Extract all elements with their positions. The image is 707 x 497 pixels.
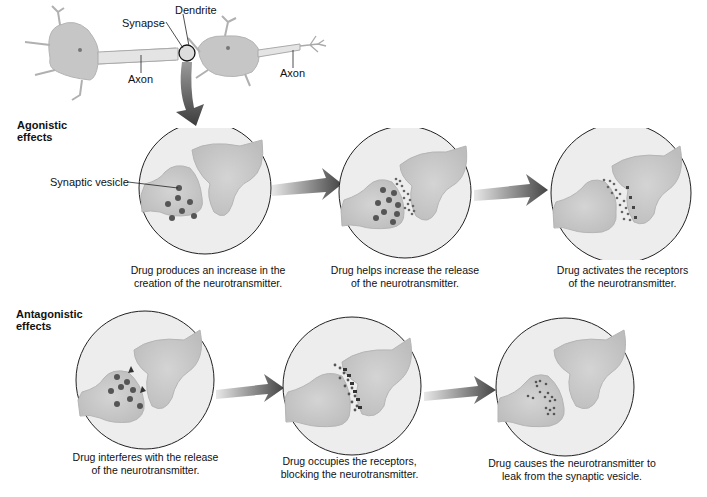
label-axon-left: Axon [128,73,153,85]
caption-agonistic-2: Drug helps increase the release of the n… [320,264,490,289]
agonistic-row-illustration [0,128,707,260]
label-dendrite: Dendrite [175,4,217,16]
antagonistic-panel-2-scene [283,317,421,455]
neuron-overview-illustration [0,0,707,130]
caption-agonistic-1: Drug produces an increase in the creatio… [118,264,298,289]
neuron-right [188,16,259,86]
agonistic-panel-3-scene [551,128,691,260]
caption-antagonistic-1: Drug interferes with the release of the … [58,451,233,476]
antagonistic-panel-3-scene [496,318,634,456]
zoom-down-arrow-icon [176,62,204,126]
antagonistic-row-illustration [0,310,707,458]
caption-antagonistic-3: Drug causes the neurotransmitter to leak… [472,457,672,482]
agonistic-panel-1-scene [128,128,271,254]
agonistic-panel-2-scene [339,128,471,258]
caption-agonistic-3: Drug activates the receptors of the neur… [540,264,705,289]
sequence-arrow-icon [216,374,284,402]
label-axon-right: Axon [280,67,305,79]
antagonistic-panel-1-scene [76,311,214,449]
caption-antagonistic-2: Drug occupies the receptors, blocking th… [262,455,437,480]
axon-right [258,44,300,57]
sequence-arrow-icon [474,174,548,206]
label-synapse: Synapse [122,17,165,29]
synapse-highlight-circle [179,45,195,61]
sequence-arrow-icon [424,376,496,404]
label-synaptic-vesicle: Synaptic vesicle [50,176,129,188]
axon-left [98,48,178,64]
sequence-arrow-icon [272,168,342,200]
